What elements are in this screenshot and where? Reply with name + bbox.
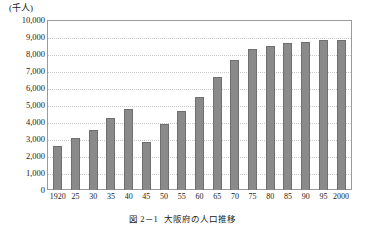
- x-axis-tick-label: 90: [297, 192, 315, 206]
- bar: [301, 42, 310, 190]
- x-axis-tick-label: 35: [102, 192, 120, 206]
- bar-slot: [332, 20, 350, 190]
- bar-slot: [155, 20, 173, 190]
- x-axis-tick-label: 60: [191, 192, 209, 206]
- y-axis-tick-label: 2,000: [1, 152, 45, 161]
- y-axis-tick-label: 0: [1, 186, 45, 195]
- x-axis: 19202530354045505560657075808590952000: [47, 192, 352, 206]
- x-axis-tick-label: 40: [120, 192, 138, 206]
- bar: [248, 49, 257, 190]
- bar-slot: [226, 20, 244, 190]
- y-axis-tick-label: 1,000: [1, 169, 45, 178]
- bar: [53, 146, 62, 190]
- x-axis-tick-label: 75: [244, 192, 262, 206]
- y-axis-unit-label: (千人): [9, 1, 33, 14]
- bar: [124, 109, 133, 190]
- x-axis-tick-label: 70: [226, 192, 244, 206]
- bar-slot: [191, 20, 209, 190]
- x-axis-tick-label: 55: [173, 192, 191, 206]
- bar: [160, 124, 169, 190]
- y-axis-tick-label: 10,000: [1, 16, 45, 25]
- population-bar-chart-figure: (千人) 10,0009,0008,0007,0006,0005,0004,00…: [0, 0, 365, 228]
- x-axis-tick-label: 65: [208, 192, 226, 206]
- bar-slot: [173, 20, 191, 190]
- caption-text: 大阪府の人口推移: [164, 214, 236, 224]
- x-axis-tick-label: 45: [138, 192, 156, 206]
- bar-slot: [244, 20, 262, 190]
- bar-slot: [138, 20, 156, 190]
- bar: [195, 97, 204, 191]
- x-axis-tick-label: 85: [279, 192, 297, 206]
- bar-slot: [315, 20, 333, 190]
- bar-slot: [120, 20, 138, 190]
- x-axis-tick-label: 50: [155, 192, 173, 206]
- x-axis-tick-label: 80: [261, 192, 279, 206]
- x-axis-tick-label: 2000: [332, 192, 350, 206]
- bar-series: [47, 20, 352, 190]
- bar-slot: [49, 20, 67, 190]
- bar-slot: [279, 20, 297, 190]
- bar: [213, 77, 222, 190]
- y-axis-tick-label: 7,000: [1, 67, 45, 76]
- bar-slot: [208, 20, 226, 190]
- x-axis-tick-label: 1920: [49, 192, 67, 206]
- y-axis-tick-label: 3,000: [1, 135, 45, 144]
- bar: [230, 60, 239, 190]
- x-axis-tick-label: 30: [84, 192, 102, 206]
- bar: [337, 40, 346, 190]
- caption-number: 図 2－1: [129, 214, 158, 224]
- y-axis-tick-label: 9,000: [1, 33, 45, 42]
- bar: [283, 43, 292, 190]
- y-axis: 10,0009,0008,0007,0006,0005,0004,0003,00…: [0, 20, 45, 190]
- bar-slot: [67, 20, 85, 190]
- bar-slot: [102, 20, 120, 190]
- bar-slot: [261, 20, 279, 190]
- y-axis-tick-label: 5,000: [1, 101, 45, 110]
- y-axis-tick-label: 6,000: [1, 84, 45, 93]
- bar: [319, 40, 328, 190]
- x-axis-tick-label: 25: [67, 192, 85, 206]
- bar-slot: [297, 20, 315, 190]
- bar: [89, 130, 98, 190]
- bar: [177, 111, 186, 190]
- bar: [142, 142, 151, 190]
- bar-slot: [84, 20, 102, 190]
- bar: [266, 46, 275, 190]
- x-axis-tick-label: 95: [315, 192, 333, 206]
- bar: [71, 138, 80, 190]
- figure-caption: 図 2－1大阪府の人口推移: [0, 214, 365, 225]
- y-axis-tick-label: 4,000: [1, 118, 45, 127]
- y-axis-tick-label: 8,000: [1, 50, 45, 59]
- bar: [106, 118, 115, 190]
